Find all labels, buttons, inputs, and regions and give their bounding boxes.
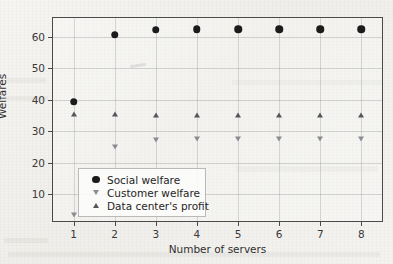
gridline-vertical [320,18,321,221]
data-point [70,98,78,106]
y-axis-tick-label: 60 [32,31,45,43]
y-axis-tick-label: 50 [32,62,45,74]
x-axis-tick-label: 4 [194,228,201,240]
data-point [276,137,282,142]
data-point [234,26,242,34]
data-point [153,138,159,143]
data-point [235,137,241,142]
gridline-horizontal [53,68,382,69]
x-axis-tick [115,221,116,226]
gridline-horizontal [53,131,382,132]
triangle-up-marker-icon [85,203,107,208]
x-axis-tick [74,221,75,226]
data-point [112,111,118,116]
data-point [194,112,200,117]
legend-label: Customer welfare [107,187,200,199]
chart-legend: Social welfare Customer welfare Data cen… [78,168,206,217]
x-axis-tick-label: 2 [111,228,118,240]
x-axis-tick [361,221,362,226]
data-point [71,112,77,117]
legend-item-social-welfare: Social welfare [85,173,199,186]
data-point [276,113,282,118]
data-point [358,137,364,142]
y-axis-tick-label: 20 [32,157,45,169]
x-axis-tick-label: 3 [152,228,159,240]
gridline-vertical [238,18,239,221]
legend-label: Data center's profit [107,200,209,212]
gridline-vertical [361,18,362,221]
data-point [111,31,119,39]
legend-item-data-center-profit: Data center's profit [85,199,199,212]
x-axis-tick-label: 6 [276,228,283,240]
x-axis-tick-label: 7 [317,228,324,240]
triangle-down-marker-icon [85,190,107,195]
data-point [358,26,366,34]
x-axis-tick [279,221,280,226]
data-point [317,26,325,34]
y-axis-tick [48,68,53,69]
gridline-vertical [74,18,75,221]
y-axis-tick [48,37,53,38]
y-axis-tick-label: 30 [32,125,45,137]
y-axis-title: Welfares [0,74,8,119]
gridline-vertical [279,18,280,221]
x-axis-tick [156,221,157,226]
data-point [112,144,118,149]
data-point [235,113,241,118]
x-axis-tick [197,221,198,226]
data-point [194,137,200,142]
data-point [275,26,283,34]
y-axis-tick [48,131,53,132]
y-axis-tick-label: 10 [32,188,45,200]
x-axis-tick [320,221,321,226]
y-axis-tick [48,163,53,164]
x-axis-tick-label: 1 [70,228,77,240]
y-axis-tick-label: 40 [32,94,45,106]
gridline-horizontal [53,100,382,101]
circle-marker-icon [85,176,107,184]
y-axis-tick [48,194,53,195]
gridline-horizontal [53,37,382,38]
data-point [317,137,323,142]
gridline-horizontal [53,163,382,164]
data-point [358,113,364,118]
scatter-plot-figure: Welfares Number of servers 1020304050601… [0,0,393,264]
legend-item-customer-welfare: Customer welfare [85,186,199,199]
data-point [193,26,201,34]
x-axis-tick [238,221,239,226]
y-axis-tick [48,100,53,101]
data-point [153,112,159,117]
data-point [152,26,160,34]
data-point [317,113,323,118]
legend-label: Social welfare [107,174,180,186]
data-point [71,212,77,217]
x-axis-tick-label: 5 [235,228,242,240]
x-axis-title: Number of servers [52,243,383,255]
x-axis-tick-label: 8 [358,228,365,240]
